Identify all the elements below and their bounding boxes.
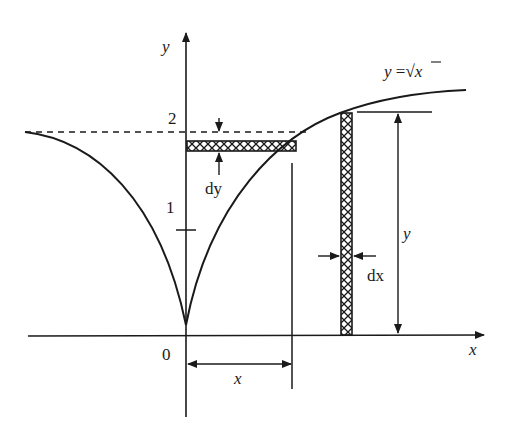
curve-equation-label: y =√x (382, 62, 423, 81)
x-axis-label: x (468, 340, 477, 359)
horizontal-strip (187, 141, 296, 151)
origin-label: 0 (162, 345, 171, 364)
y-axis-label: y (160, 37, 170, 56)
x-axis (28, 335, 484, 336)
tick-label-2: 2 (168, 109, 177, 128)
tick-label-1: 1 (166, 198, 175, 217)
y-dimension-label: y (401, 224, 411, 243)
dy-label: dy (205, 179, 223, 198)
sqrt-curve (186, 90, 466, 325)
x-dimension-label: x (233, 369, 242, 388)
dx-label: dx (367, 266, 385, 285)
equation-lhs: y (382, 62, 392, 81)
equation-equals: = (392, 62, 406, 81)
vertical-strip (341, 113, 352, 335)
diagram-canvas: y 2 1 0 x dy dx y x y =√x (0, 0, 510, 436)
equation-argument: x (414, 62, 423, 81)
left-curve (25, 132, 186, 325)
